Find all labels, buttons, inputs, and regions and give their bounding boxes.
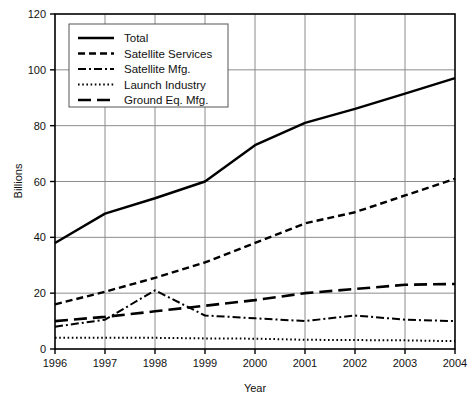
legend-label-1: Satellite Services [124, 48, 212, 60]
y-tick-label: 80 [34, 120, 46, 132]
line-chart: 020406080100120 199619971998199920002001… [0, 0, 474, 400]
y-tick-label: 20 [34, 287, 46, 299]
y-tick-label: 100 [28, 64, 46, 76]
x-axis-title: Year [244, 382, 267, 394]
y-tick-label: 0 [40, 343, 46, 355]
x-tick-label: 2000 [243, 357, 267, 369]
x-tick-label: 2004 [443, 357, 467, 369]
x-tick-label: 1997 [93, 357, 117, 369]
x-tick-label: 1998 [143, 357, 167, 369]
x-axis-tick-labels: 199619971998199920002001200220032004 [43, 357, 467, 369]
x-tick-label: 2002 [343, 357, 367, 369]
legend-label-4: Ground Eq. Mfg. [124, 94, 208, 106]
legend-label-0: Total [124, 32, 148, 44]
legend-label-3: Launch Industry [124, 79, 206, 91]
x-tick-label: 1999 [193, 357, 217, 369]
y-tick-label: 40 [34, 231, 46, 243]
y-tick-label: 120 [28, 8, 46, 20]
chart-figure: 020406080100120 199619971998199920002001… [0, 0, 474, 400]
chart-legend: TotalSatellite ServicesSatellite Mfg.Lau… [69, 24, 228, 107]
y-tick-label: 60 [34, 176, 46, 188]
y-axis-title: Billions [12, 163, 24, 198]
y-axis-tick-labels: 020406080100120 [28, 8, 46, 355]
x-tick-label: 1996 [43, 357, 67, 369]
x-tick-label: 2001 [293, 357, 317, 369]
legend-label-2: Satellite Mfg. [124, 63, 190, 75]
x-tick-label: 2003 [393, 357, 417, 369]
